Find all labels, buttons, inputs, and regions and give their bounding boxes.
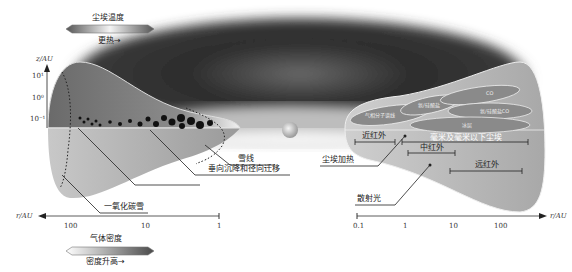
dust-heating-label: 尘埃加热 [322,155,354,165]
far-ir-label: 远红外 [475,160,499,170]
snowline-label: 雪线 [238,154,254,164]
dust-temperature-caption: 更热→ [98,36,121,46]
left-r-tick: 1 [217,222,221,230]
z-axis-label: z/AU [36,55,53,63]
left-r-axis-label: r/AU [16,212,33,220]
mid-ir-label: 中红外 [420,143,444,153]
settling-migration-label: 垂向沉降和径向迁移 [208,164,280,174]
ellipse-label: 冰层 [462,121,472,128]
mm-dust-label: 毫米及毫米以下尘埃 [430,131,502,142]
co-snow-label: 一氧化碳雪 [104,202,144,212]
scattered-light-label: 散射光 [357,194,381,204]
right-r-tick: 100 [494,222,507,230]
ellipse-label: 氨/硅酸盐 [418,101,440,108]
right-r-axis-label: r/AU [550,212,567,220]
dust-temperature-title: 尘埃温度 [92,13,124,23]
right-r-tick: 10 [449,222,458,230]
left-r-tick: 10 [141,222,150,230]
gas-density-title: 气体密度 [90,234,122,244]
right-r-tick: 0.1 [353,222,364,230]
right-r-tick: 1 [403,222,407,230]
ellipse-label: 氨/硅酸盐CO [480,107,509,114]
near-ir-label: 近红外 [362,131,386,141]
ellipse-label: CO [486,90,493,96]
z-tick: 10¹ [32,72,44,80]
left-r-tick: 100 [64,222,77,230]
z-tick: 10⁻¹ [30,115,45,123]
gas-density-caption: 密度升高→ [86,257,125,267]
z-tick: 10⁰ [32,94,44,102]
ellipse-label: 气相分子谱线 [365,111,395,118]
